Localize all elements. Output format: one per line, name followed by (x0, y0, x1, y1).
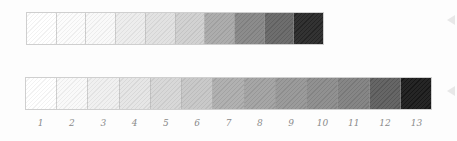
scale-label: 11 (338, 118, 369, 128)
scale-label: 4 (119, 118, 150, 128)
top-swatch-5 (146, 13, 176, 44)
top-swatch-1 (27, 13, 57, 44)
bottom-swatch-4 (120, 78, 151, 109)
scale-label: 2 (56, 118, 87, 128)
bottom-swatch-7 (213, 78, 244, 109)
value-scale-top (26, 12, 324, 45)
top-swatch-7 (205, 13, 235, 44)
bottom-swatch-11 (338, 78, 369, 109)
bottom-swatch-12 (370, 78, 401, 109)
top-swatch-10 (294, 13, 323, 44)
value-scale-labels: 12345678910111213 (25, 118, 432, 128)
bottom-swatch-3 (88, 78, 119, 109)
bottom-swatch-1 (26, 78, 57, 109)
top-swatch-9 (265, 13, 295, 44)
top-swatch-6 (176, 13, 206, 44)
scale-label: 12 (369, 118, 400, 128)
bottom-swatch-10 (307, 78, 338, 109)
top-swatch-4 (116, 13, 146, 44)
scale-label: 5 (150, 118, 181, 128)
value-scale-bottom (25, 77, 432, 110)
scale-label: 6 (182, 118, 213, 128)
scale-label: 8 (244, 118, 275, 128)
bottom-swatch-8 (245, 78, 276, 109)
scale-label: 13 (401, 118, 432, 128)
bottom-swatch-2 (57, 78, 88, 109)
scale-label: 7 (213, 118, 244, 128)
scale-label: 1 (25, 118, 56, 128)
triangle-marker-icon (447, 15, 455, 25)
bottom-swatch-9 (276, 78, 307, 109)
bottom-swatch-13 (401, 78, 431, 109)
top-swatch-3 (86, 13, 116, 44)
triangle-marker-icon (447, 86, 455, 96)
scale-label: 3 (88, 118, 119, 128)
bottom-swatch-6 (182, 78, 213, 109)
top-swatch-2 (57, 13, 87, 44)
scale-label: 9 (276, 118, 307, 128)
top-swatch-8 (235, 13, 265, 44)
bottom-swatch-5 (151, 78, 182, 109)
scale-label: 10 (307, 118, 338, 128)
